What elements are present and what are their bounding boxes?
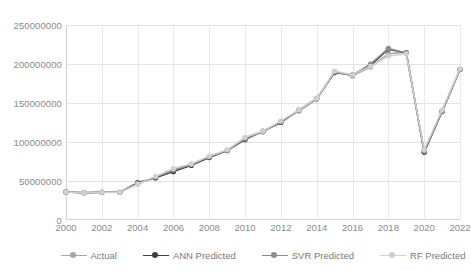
x-tick-label: 2000 (55, 222, 76, 233)
data-point (439, 107, 444, 112)
y-tick-label: 150000000 (14, 98, 62, 109)
x-tick-label: 2002 (91, 222, 112, 233)
legend-marker-icon (262, 250, 288, 260)
series-line (66, 54, 460, 193)
x-tick-label: 2010 (235, 222, 256, 233)
y-tick-label: 50000000 (19, 176, 62, 187)
series-actual (63, 50, 462, 196)
data-point (386, 54, 391, 59)
data-point (422, 147, 427, 152)
series-svr-predicted (63, 46, 462, 195)
x-tick-label: 2020 (414, 222, 435, 233)
legend-item[interactable]: RF Predicted (380, 250, 465, 261)
legend-marker-icon (61, 250, 87, 260)
data-point (99, 190, 104, 195)
series-line (66, 49, 460, 193)
y-axis-labels: 0500000001000000001500000002000000002500… (0, 25, 62, 220)
legend-marker-icon (380, 250, 406, 260)
data-point (117, 190, 122, 195)
data-point (260, 128, 265, 133)
y-tick-label: 200000000 (14, 59, 62, 70)
data-point (153, 174, 158, 179)
data-point (404, 51, 409, 56)
data-point (278, 118, 283, 123)
series-ann-predicted (63, 47, 462, 196)
x-tick-label: 2018 (378, 222, 399, 233)
x-tick-label: 2004 (127, 222, 148, 233)
x-tick-label: 2006 (163, 222, 184, 233)
series-line (66, 48, 460, 192)
y-tick-label: 100000000 (14, 137, 62, 148)
y-tick-label: 250000000 (14, 20, 62, 31)
data-point (189, 161, 194, 166)
gridline-vertical (460, 25, 461, 220)
legend-marker-icon (143, 250, 169, 260)
x-tick-label: 2008 (199, 222, 220, 233)
series-line (66, 52, 460, 192)
data-point (171, 166, 176, 171)
data-point (457, 66, 462, 71)
x-tick-label: 2014 (306, 222, 327, 233)
legend-item[interactable]: Actual (61, 250, 117, 261)
data-point (350, 72, 355, 77)
series-rf-predicted (63, 51, 462, 195)
legend-item[interactable]: ANN Predicted (143, 250, 236, 261)
chart-legend: ActualANN PredictedSVR PredictedRF Predi… (66, 246, 460, 264)
x-tick-label: 2012 (270, 222, 291, 233)
x-axis-labels: 2000200220042006200820102012201420162018… (66, 222, 460, 240)
legend-label: SVR Predicted (292, 250, 354, 261)
data-point (225, 147, 230, 152)
data-point (81, 190, 86, 195)
plot-area (66, 25, 460, 220)
data-point (332, 68, 337, 73)
x-tick-label: 2016 (342, 222, 363, 233)
legend-item[interactable]: SVR Predicted (262, 250, 354, 261)
data-point (386, 46, 391, 51)
data-point (368, 64, 373, 69)
data-point (207, 153, 212, 158)
data-point (296, 107, 301, 112)
data-point (135, 182, 140, 187)
data-point (63, 189, 68, 194)
legend-label: RF Predicted (410, 250, 465, 261)
data-point (242, 135, 247, 140)
legend-label: ANN Predicted (173, 250, 236, 261)
series-lines (66, 25, 460, 220)
legend-label: Actual (91, 250, 117, 261)
data-point (314, 96, 319, 101)
x-tick-label: 2022 (449, 222, 470, 233)
